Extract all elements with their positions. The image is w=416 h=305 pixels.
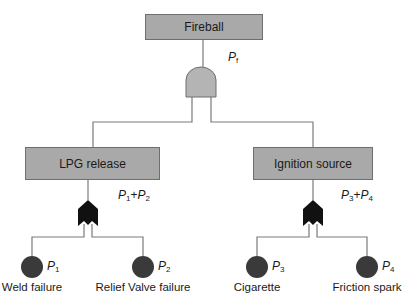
ignition-probability: P3+P4 <box>341 188 373 203</box>
basic-event-prob-3: P3 <box>272 259 284 274</box>
basic-event-circle-4 <box>356 256 378 278</box>
basic-event-prob-1: P1 <box>47 259 59 274</box>
lpg-probability: P1+P2 <box>118 188 150 203</box>
top-event-fireball: Fireball <box>145 14 263 40</box>
basic-event-label-relief-valve-failure: Relief Valve failure <box>95 281 190 293</box>
basic-event-circle-3 <box>246 256 268 278</box>
or-gate-icon-right <box>303 200 323 226</box>
top-event-probability: Pf <box>228 50 238 65</box>
top-event-label: Fireball <box>184 20 223 34</box>
or-gate-icon-left <box>78 200 98 226</box>
basic-event-label-weld-failure: Weld failure <box>2 281 63 293</box>
intermediate-event-ignition-source: Ignition source <box>253 147 373 180</box>
basic-event-label-friction-spark: Friction spark <box>332 281 401 293</box>
basic-event-label-cigarette: Cigarette <box>234 281 281 293</box>
basic-event-prob-4: P4 <box>382 259 394 274</box>
and-gate-icon <box>186 67 216 97</box>
basic-event-prob-2: P2 <box>158 259 170 274</box>
basic-event-circle-1 <box>21 256 43 278</box>
intermediate-event-lpg-release: LPG release <box>25 147 160 180</box>
basic-event-circle-2 <box>132 256 154 278</box>
